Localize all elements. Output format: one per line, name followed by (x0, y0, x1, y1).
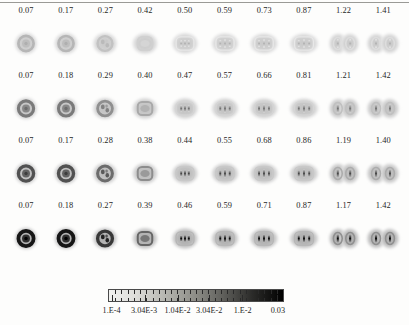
colorbar-minor-tick (159, 298, 160, 302)
colorbar-major-tick (242, 295, 243, 301)
colorbar-tick-label: 3.04E-2 (196, 304, 222, 318)
colorbar-major-tick (277, 295, 278, 301)
colorbar-minor-tick (159, 290, 160, 294)
panel-row-4-labels: 0.070.180.270.390.460.590.710.871.171.42 (0, 199, 409, 213)
density-panel (205, 148, 245, 199)
density-panel (284, 83, 324, 134)
panel-row-4-tiles (0, 213, 409, 264)
panel-label: 1.17 (324, 199, 364, 213)
colorbar-tick-label: 0.03 (271, 304, 285, 318)
colorbar-minor-tick (146, 298, 147, 302)
colorbar-minor-tick (227, 290, 228, 294)
figure-root: 0.070.170.270.420.500.590.730.871.221.41… (0, 0, 409, 325)
density-panel (46, 18, 86, 69)
colorbar-major-tick (112, 295, 113, 301)
density-panel (6, 148, 46, 199)
density-panel (324, 83, 364, 134)
colorbar-minor-tick (171, 298, 172, 302)
density-panel (363, 213, 403, 264)
panel-label: 0.40 (125, 69, 165, 83)
density-panel (125, 148, 165, 199)
panel-label: 0.68 (244, 134, 284, 148)
density-panel (205, 18, 245, 69)
panel-label: 0.07 (6, 199, 46, 213)
colorbar-minor-tick (196, 298, 197, 302)
density-panel (85, 83, 125, 134)
panel-label: 0.17 (46, 4, 86, 18)
panel-row-3-tiles (0, 148, 409, 199)
panel-row-2-labels: 0.070.180.290.400.470.570.660.811.211.42 (0, 69, 409, 83)
colorbar-major-tick (178, 295, 179, 301)
density-panel (363, 18, 403, 69)
colorbar-minor-tick (246, 298, 247, 302)
panel-label: 0.44 (165, 134, 205, 148)
panel-label: 0.27 (85, 199, 125, 213)
colorbar-minor-tick (264, 290, 265, 294)
panel-label: 0.47 (165, 69, 205, 83)
density-panel (324, 18, 364, 69)
density-panel (244, 18, 284, 69)
density-panel (6, 83, 46, 134)
panel-label: 0.50 (165, 4, 205, 18)
colorbar-minor-tick (258, 298, 259, 302)
panel-label: 0.81 (284, 69, 324, 83)
density-panel (125, 213, 165, 264)
colorbar-minor-tick (190, 290, 191, 294)
colorbar-minor-tick (121, 290, 122, 294)
colorbar-minor-tick (121, 298, 122, 302)
colorbar-tick-label: 1.E-4 (103, 304, 121, 318)
colorbar-minor-tick (208, 290, 209, 294)
colorbar-minor-tick (165, 290, 166, 294)
panel-label: 1.19 (324, 134, 364, 148)
panel-label: 0.38 (125, 134, 165, 148)
density-panel (165, 18, 205, 69)
colorbar-minor-tick (134, 290, 135, 294)
colorbar-minor-tick (184, 298, 185, 302)
colorbar-major-tick (145, 295, 146, 301)
colorbar-minor-tick (215, 290, 216, 294)
colorbar-minor-tick (271, 290, 272, 294)
density-panel (165, 83, 205, 134)
density-panel (85, 213, 125, 264)
colorbar-minor-tick (171, 290, 172, 294)
colorbar-minor-tick (140, 290, 141, 294)
panel-label: 0.59 (205, 199, 245, 213)
density-panel (125, 18, 165, 69)
panel-label: 0.87 (284, 199, 324, 213)
colorbar-tick-labels: 1.E-43.04E-31.04E-23.04E-21.E-20.03 (104, 304, 290, 318)
colorbar-minor-tick (252, 298, 253, 302)
colorbar: 1.E-43.04E-31.04E-23.04E-21.E-20.03 (104, 289, 290, 323)
colorbar-minor-tick (202, 290, 203, 294)
panel-label: 0.18 (46, 69, 86, 83)
panel-label: 0.57 (205, 69, 245, 83)
colorbar-minor-tick (233, 290, 234, 294)
colorbar-minor-tick (196, 290, 197, 294)
density-panel (6, 18, 46, 69)
panel-row-1-labels: 0.070.170.270.420.500.590.730.871.221.41 (0, 4, 409, 18)
colorbar-tick-label: 1.E-2 (234, 304, 252, 318)
colorbar-minor-tick (233, 298, 234, 302)
density-panel (363, 83, 403, 134)
panel-label: 0.86 (284, 134, 324, 148)
panel-label: 0.17 (46, 134, 86, 148)
density-panel (324, 213, 364, 264)
colorbar-minor-tick (153, 290, 154, 294)
density-panel (165, 213, 205, 264)
panel-label: 0.07 (6, 134, 46, 148)
colorbar-minor-tick (184, 290, 185, 294)
colorbar-minor-tick (277, 290, 278, 294)
colorbar-minor-tick (202, 298, 203, 302)
density-panel (244, 148, 284, 199)
colorbar-tick-label: 1.04E-2 (164, 304, 190, 318)
density-panel (6, 213, 46, 264)
colorbar-minor-tick (258, 290, 259, 294)
panel-row-2-tiles (0, 83, 409, 134)
colorbar-minor-tick (115, 298, 116, 302)
density-panel (284, 148, 324, 199)
density-panel (363, 148, 403, 199)
panel-label: 0.28 (85, 134, 125, 148)
panel-label: 1.21 (324, 69, 364, 83)
colorbar-minor-tick (221, 290, 222, 294)
colorbar-minor-tick (271, 298, 272, 302)
density-panel (125, 83, 165, 134)
